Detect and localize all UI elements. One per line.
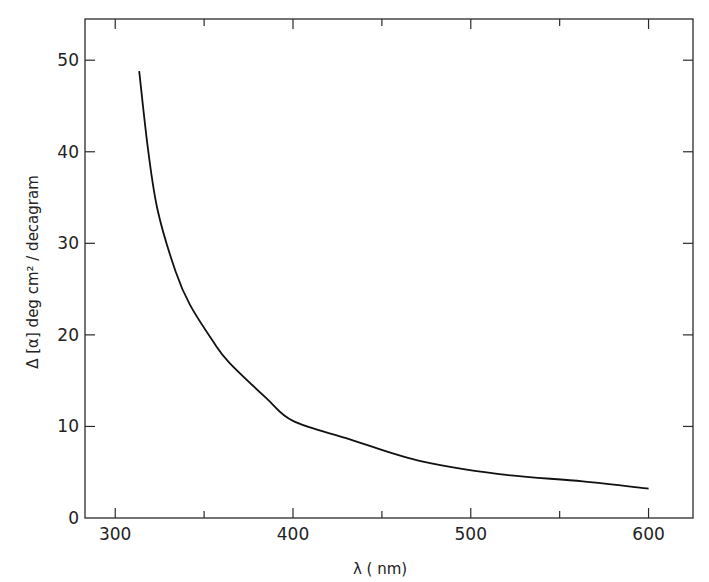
plot-frame bbox=[85, 19, 693, 518]
chart: 300400500600 01020304050 λ ( nm) Δ [α] d… bbox=[0, 0, 709, 582]
x-axis-ticks bbox=[115, 19, 648, 518]
x-tick-label: 400 bbox=[277, 524, 309, 544]
x-tick-label: 300 bbox=[99, 524, 131, 544]
x-axis-tick-labels: 300400500600 bbox=[99, 524, 665, 544]
y-axis-label: Δ [α] deg cm² / decagram bbox=[24, 175, 42, 369]
x-axis-label: λ ( nm) bbox=[353, 560, 407, 578]
x-tick-label: 500 bbox=[455, 524, 487, 544]
data-curve bbox=[139, 71, 648, 489]
y-axis-tick-labels: 01020304050 bbox=[57, 50, 79, 528]
y-tick-label: 40 bbox=[57, 142, 79, 162]
y-tick-label: 0 bbox=[68, 508, 79, 528]
y-tick-label: 30 bbox=[57, 233, 79, 253]
y-tick-label: 50 bbox=[57, 50, 79, 70]
y-axis-ticks bbox=[85, 60, 693, 426]
y-tick-label: 20 bbox=[57, 325, 79, 345]
y-tick-label: 10 bbox=[57, 416, 79, 436]
x-tick-label: 600 bbox=[632, 524, 664, 544]
